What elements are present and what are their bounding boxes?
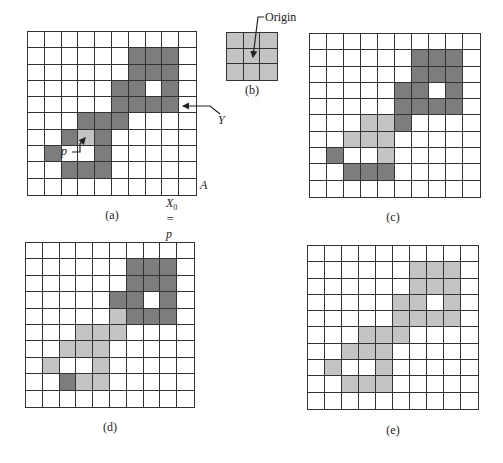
grid-cell — [62, 81, 79, 97]
grid-cell — [376, 262, 393, 278]
grid-cell — [325, 327, 342, 343]
grid-cell — [162, 179, 179, 195]
grid-cell — [463, 148, 480, 164]
grid-cell — [446, 50, 463, 66]
grid-cell — [127, 276, 144, 292]
grid-cell — [308, 311, 325, 327]
grid-cell — [412, 181, 429, 197]
grid-cell — [127, 341, 144, 357]
grid-cell — [93, 341, 110, 357]
grid-cell — [308, 327, 325, 343]
grid-cell — [162, 32, 179, 48]
grid-cell — [129, 65, 146, 81]
grid-cell — [327, 115, 344, 131]
grid-cell — [28, 179, 45, 195]
caption-c: (c) — [373, 210, 413, 225]
grid-cell — [410, 376, 427, 392]
label-X0-equals-p: X0 = p — [166, 196, 177, 242]
grid-cell — [60, 276, 77, 292]
grid-cell — [177, 259, 194, 275]
grid-cell — [310, 99, 327, 115]
grid-cell — [93, 325, 110, 341]
grid-cell — [60, 259, 77, 275]
grid-cell — [95, 48, 112, 64]
grid-cell — [160, 374, 177, 390]
grid-cell — [93, 391, 110, 407]
grid-cell — [359, 311, 376, 327]
grid-cell — [146, 179, 163, 195]
grid-cell — [429, 50, 446, 66]
grid-cell — [76, 391, 93, 407]
grid-cell — [308, 393, 325, 409]
grid-cell — [342, 279, 359, 295]
grid-cell — [325, 311, 342, 327]
grid-cell — [177, 292, 194, 308]
grid-cell — [93, 358, 110, 374]
grid-cell — [129, 130, 146, 146]
grid-cell — [395, 164, 412, 180]
grid-cell — [26, 259, 43, 275]
grid-cell — [427, 246, 444, 262]
grid-cell — [95, 97, 112, 113]
grid-cell — [361, 148, 378, 164]
grid-cell — [110, 325, 127, 341]
grid-cell — [160, 325, 177, 341]
grid-cell — [260, 49, 277, 65]
grid-cell — [78, 48, 95, 64]
grid-cell — [308, 376, 325, 392]
grid-cell — [43, 325, 60, 341]
caption-a: (a) — [92, 208, 132, 223]
grid-cell — [179, 146, 196, 162]
grid-cell — [446, 83, 463, 99]
grid-cell — [463, 83, 480, 99]
grid-cell — [327, 50, 344, 66]
grid-cell — [93, 276, 110, 292]
grid-cell — [427, 327, 444, 343]
grid-cell — [342, 246, 359, 262]
grid-cell — [144, 259, 161, 275]
grid-cell — [112, 97, 129, 113]
grid-cell — [310, 148, 327, 164]
grid-cell — [308, 262, 325, 278]
grid-cell — [162, 162, 179, 178]
grid-cell — [144, 358, 161, 374]
grid-cell — [179, 81, 196, 97]
grid-cell — [446, 132, 463, 148]
grid-cell — [62, 97, 79, 113]
grid-cell — [162, 130, 179, 146]
grid-cell — [395, 83, 412, 99]
grid-cell — [160, 358, 177, 374]
grid-cell — [344, 148, 361, 164]
grid-cell — [93, 374, 110, 390]
grid-cell — [310, 83, 327, 99]
caption-e: (e) — [373, 423, 413, 438]
grid-cell — [378, 83, 395, 99]
grid-cell — [359, 376, 376, 392]
label-p: p — [61, 144, 67, 159]
grid-cell — [361, 50, 378, 66]
grid-cell — [342, 327, 359, 343]
grid-cell — [376, 393, 393, 409]
grid-cell — [461, 376, 478, 392]
grid-cell — [461, 311, 478, 327]
grid-cell — [60, 341, 77, 357]
grid-cell — [110, 259, 127, 275]
grid-cell — [43, 309, 60, 325]
grid-cell — [410, 311, 427, 327]
grid-cell — [129, 32, 146, 48]
grid-cell — [410, 262, 427, 278]
grid-cell — [395, 99, 412, 115]
grid-cell — [28, 65, 45, 81]
grid-cell — [429, 83, 446, 99]
grid-cell — [62, 48, 79, 64]
grid-cell — [378, 164, 395, 180]
grid-cell — [177, 358, 194, 374]
grid-cell — [162, 81, 179, 97]
grid-cell — [463, 132, 480, 148]
grid-cell — [446, 164, 463, 180]
grid-cell — [129, 81, 146, 97]
grid-cell — [378, 50, 395, 66]
grid-cell — [395, 132, 412, 148]
grid-cell — [461, 360, 478, 376]
grid-cell — [310, 67, 327, 83]
